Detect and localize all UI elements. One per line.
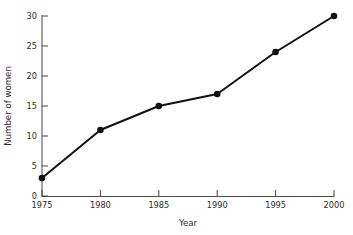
x-tick-label: 2000 bbox=[324, 200, 345, 210]
y-tick-label: 10 bbox=[27, 131, 37, 141]
x-tick-label: 1990 bbox=[207, 200, 228, 210]
data-point-marker bbox=[272, 49, 279, 56]
y-tick-label: 5 bbox=[32, 161, 37, 171]
x-tick-label: 1975 bbox=[32, 200, 53, 210]
x-axis-title: Year bbox=[178, 218, 198, 228]
y-axis-title: Number of women bbox=[3, 66, 13, 146]
x-tick-label: 1985 bbox=[148, 200, 169, 210]
data-point-marker bbox=[97, 127, 104, 134]
chart-figure: 30 25 20 15 10 5 0 1975 1980 1985 1990 1… bbox=[0, 0, 353, 235]
data-point-marker bbox=[39, 175, 46, 182]
line-chart-canvas: 30 25 20 15 10 5 0 1975 1980 1985 1990 1… bbox=[0, 0, 353, 235]
y-tick-label: 20 bbox=[27, 71, 37, 81]
x-tick-label: 1980 bbox=[90, 200, 111, 210]
data-point-marker bbox=[214, 91, 221, 98]
y-tick-label: 30 bbox=[27, 11, 37, 21]
y-tick-label: 25 bbox=[27, 41, 37, 51]
data-point-marker bbox=[331, 13, 338, 20]
chart-background bbox=[0, 0, 353, 235]
data-point-marker bbox=[156, 103, 163, 110]
x-tick-label: 1995 bbox=[265, 200, 286, 210]
y-tick-label: 15 bbox=[27, 101, 37, 111]
